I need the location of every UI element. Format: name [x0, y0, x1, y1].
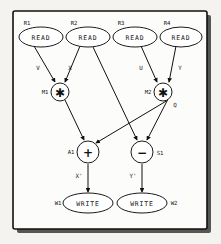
write-node-w2-id: W2 [171, 200, 178, 206]
read-node-r3-id: R3 [118, 20, 125, 26]
read-node-r2-label: READ [79, 34, 98, 42]
read-node-r4-label: READ [172, 34, 191, 42]
multiply-node-m2-id: M2 [145, 89, 152, 95]
edge-label-q: Q [173, 102, 177, 108]
minus-operator-icon: − [137, 146, 147, 160]
write-node-w2-label: WRITE [130, 200, 154, 208]
multiply-operator-icon-2: ✱ [158, 86, 168, 100]
read-node-r1-id: R1 [24, 20, 31, 26]
edge-label-y-prime: Y' [130, 173, 137, 179]
write-node-w1-label: WRITE [76, 200, 100, 208]
add-node-a1-id: A1 [68, 149, 75, 155]
read-node-r3-label: READ [126, 34, 145, 42]
write-node-w1-id: W1 [55, 200, 62, 206]
diagram-canvas: V X U Y Q X' Y' READ R1 READ R2 READ R3 … [0, 0, 221, 244]
subtract-node-s1-id: S1 [157, 150, 164, 156]
edge-label-v: V [36, 65, 40, 71]
plus-operator-icon: + [83, 146, 93, 160]
multiply-node-m1-id: M1 [42, 89, 49, 95]
dataflow-graph: V X U Y Q X' Y' READ R1 READ R2 READ R3 … [0, 0, 221, 244]
edge-label-x-prime: X' [76, 173, 83, 179]
read-node-r4-id: R4 [164, 20, 171, 26]
multiply-operator-icon: ✱ [55, 86, 65, 100]
read-node-r1-label: READ [32, 34, 51, 42]
edge-label-y: Y [178, 65, 182, 71]
read-node-r2-id: R2 [71, 20, 78, 26]
edge-label-x: X [68, 65, 72, 71]
edge-label-u: U [139, 65, 143, 71]
